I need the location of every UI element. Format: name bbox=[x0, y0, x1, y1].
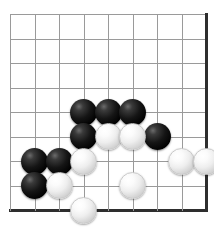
black-stone[interactable] bbox=[21, 172, 48, 199]
black-stone[interactable] bbox=[95, 99, 122, 126]
grid-line-vertical bbox=[10, 14, 11, 211]
white-stone[interactable] bbox=[70, 197, 97, 224]
go-board[interactable]: Go board position bbox=[0, 0, 214, 238]
grid-line-vertical bbox=[157, 14, 158, 211]
grid-line-vertical bbox=[182, 14, 183, 211]
white-stone[interactable] bbox=[119, 123, 146, 150]
white-stone[interactable] bbox=[95, 123, 122, 150]
black-stone[interactable] bbox=[119, 99, 146, 126]
black-stone[interactable] bbox=[144, 123, 171, 150]
black-stone[interactable] bbox=[70, 123, 97, 150]
black-stone[interactable] bbox=[21, 148, 48, 175]
board-surface[interactable] bbox=[0, 0, 214, 238]
white-stone[interactable] bbox=[119, 172, 146, 199]
black-stone[interactable] bbox=[70, 99, 97, 126]
white-stone[interactable] bbox=[70, 148, 97, 175]
white-stone[interactable] bbox=[193, 148, 215, 175]
grid-line-vertical bbox=[205, 13, 208, 212]
white-stone[interactable] bbox=[168, 148, 195, 175]
black-stone[interactable] bbox=[46, 148, 73, 175]
white-stone[interactable] bbox=[46, 172, 73, 199]
